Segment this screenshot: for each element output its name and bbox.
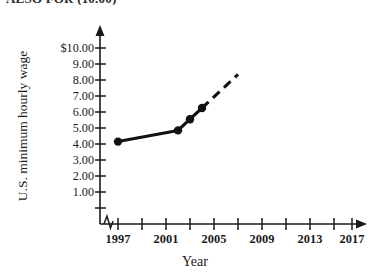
axis-break-icon xyxy=(104,216,113,228)
data-line-projection xyxy=(202,74,238,108)
data-point-marker xyxy=(198,104,206,112)
data-point-marker xyxy=(174,126,182,134)
x-axis-arrowhead-icon xyxy=(356,220,367,229)
plot-area xyxy=(0,0,368,278)
minimum-wage-line-chart: ALSO FOR (10.00) U.S. minimum hourly wag… xyxy=(0,0,368,278)
data-point-marker xyxy=(114,137,122,145)
data-line-actual xyxy=(118,108,202,142)
data-point-marker xyxy=(186,115,194,123)
y-axis-arrowhead-icon xyxy=(96,25,105,36)
